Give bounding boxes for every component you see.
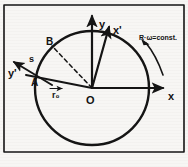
origin-label: O [86, 94, 95, 106]
x-prime-axis-label: x' [113, 24, 122, 36]
position-vector-label: r₀ [52, 90, 60, 100]
omega-constant-annotation: R·ω=const. [139, 34, 177, 41]
x-axis-label: x [168, 90, 175, 102]
point-b-label: B [46, 36, 53, 47]
y-axis-label: y [99, 18, 106, 30]
physics-diagram-svg: y x x' y' A B s O r₀ R·ω=const. [0, 0, 188, 167]
y-prime-axis-label: y' [8, 67, 17, 79]
arc-length-label: s [29, 54, 34, 64]
figure-container: y x x' y' A B s O r₀ R·ω=const. [0, 0, 188, 167]
point-a-label: A [31, 77, 38, 88]
